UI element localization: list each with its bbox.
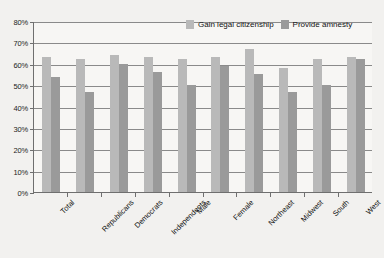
bar	[245, 49, 254, 192]
x-axis-tick	[203, 193, 204, 197]
bar-group	[102, 22, 136, 192]
chart-legend: Gain legal citizenshipProvide amnesty	[186, 20, 352, 29]
bar	[254, 74, 263, 192]
x-axis-tick	[338, 193, 339, 197]
bar-group	[237, 22, 271, 192]
x-axis-tick	[135, 193, 136, 197]
bar	[51, 77, 60, 192]
bar	[347, 57, 356, 192]
legend-swatch	[186, 20, 194, 29]
bar	[322, 85, 331, 192]
y-axis-label: 80%	[14, 18, 28, 27]
bar	[110, 55, 119, 192]
legend-label: Gain legal citizenship	[198, 20, 274, 29]
bar-group	[204, 22, 238, 192]
x-axis-tick	[169, 193, 170, 197]
y-axis-label: 30%	[14, 124, 28, 133]
x-axis-tick	[304, 193, 305, 197]
y-axis-label: 0%	[18, 189, 28, 198]
bar	[85, 92, 94, 192]
x-axis-tick	[270, 193, 271, 197]
bar	[356, 59, 365, 192]
x-axis-label: Republicans	[100, 198, 136, 234]
x-axis-label: West	[364, 198, 382, 216]
bar	[119, 64, 128, 192]
y-axis-tick	[30, 193, 34, 194]
x-axis-label: South	[331, 198, 351, 218]
bar	[144, 57, 153, 192]
y-axis-label: 50%	[14, 82, 28, 91]
x-axis-label: Northeast	[267, 198, 296, 227]
x-axis-label: Midwest	[299, 198, 325, 224]
plot-area	[33, 22, 372, 193]
bar	[313, 59, 322, 192]
bar-group	[170, 22, 204, 192]
y-axis-label: 60%	[14, 60, 28, 69]
legend-entry: Provide amnesty	[281, 20, 353, 29]
bar-group	[136, 22, 170, 192]
bar-group	[271, 22, 305, 192]
y-axis-label: 40%	[14, 103, 28, 112]
x-axis-tick	[101, 193, 102, 197]
legend-swatch	[281, 20, 289, 29]
y-axis-label: 70%	[14, 39, 28, 48]
bar	[220, 66, 229, 192]
bar-group	[305, 22, 339, 192]
x-axis-tick	[236, 193, 237, 197]
legend-label: Provide amnesty	[293, 20, 353, 29]
bar-chart: 0%10%20%30%40%50%60%70%80% TotalRepublic…	[0, 0, 384, 258]
bar	[42, 57, 51, 192]
x-axis-tick	[67, 193, 68, 197]
bar	[76, 59, 85, 192]
y-axis-label: 10%	[14, 167, 28, 176]
bar-group	[34, 22, 68, 192]
x-axis-label: Total	[59, 198, 77, 216]
x-axis-label: Democrats	[132, 198, 164, 230]
legend-entry: Gain legal citizenship	[186, 20, 274, 29]
bar	[288, 92, 297, 192]
x-axis-label: Female	[231, 198, 255, 222]
bar	[279, 68, 288, 192]
bar-group	[68, 22, 102, 192]
bar	[153, 72, 162, 192]
bar-group	[339, 22, 373, 192]
bar	[187, 85, 196, 192]
y-axis-label: 20%	[14, 146, 28, 155]
bar	[178, 59, 187, 192]
bar	[211, 57, 220, 192]
